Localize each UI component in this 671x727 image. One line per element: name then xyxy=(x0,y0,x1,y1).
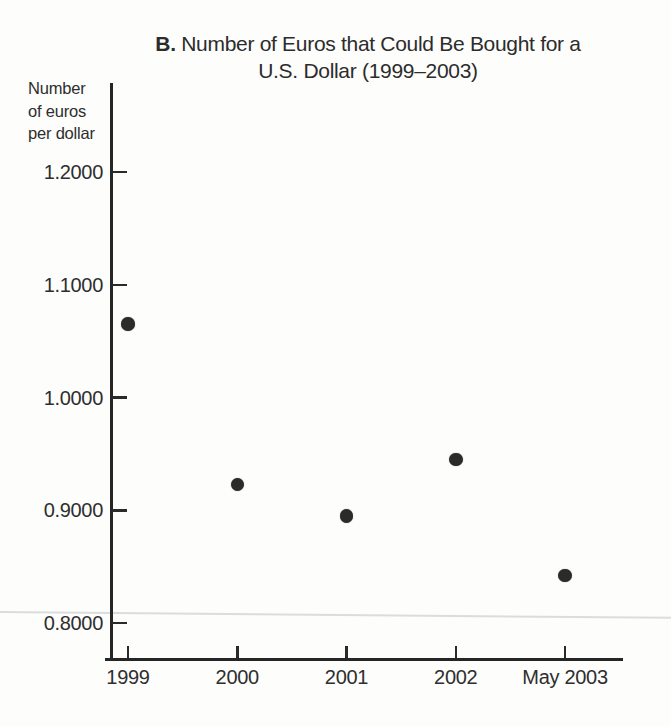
x-axis-tick xyxy=(564,646,567,658)
x-axis-tick xyxy=(127,646,130,658)
x-tick-label: 2002 xyxy=(396,665,516,689)
y-axis-tick xyxy=(112,171,127,174)
x-tick-label: 2000 xyxy=(177,665,297,689)
y-tick-label: 1.0000 xyxy=(0,386,103,410)
plot-area: 1.20001.10001.00000.90000.8000 199920002… xyxy=(0,0,671,727)
y-axis-line xyxy=(110,83,113,661)
data-point-2001 xyxy=(340,509,354,523)
y-tick-label: 0.9000 xyxy=(0,498,103,522)
y-axis-tick xyxy=(112,622,127,625)
x-axis-line xyxy=(105,658,623,661)
y-tick-label: 1.1000 xyxy=(0,273,103,297)
y-axis-tick xyxy=(112,396,127,399)
y-tick-label: 0.8000 xyxy=(0,611,103,635)
data-point-2002 xyxy=(449,453,463,467)
y-tick-label: 1.2000 xyxy=(0,160,103,184)
y-axis-tick xyxy=(112,509,127,512)
y-axis-tick xyxy=(112,284,127,287)
x-axis-tick xyxy=(345,646,348,658)
x-axis-tick xyxy=(236,646,239,658)
x-axis-tick xyxy=(455,646,458,658)
x-tick-label: 1999 xyxy=(68,665,188,689)
data-point-2000 xyxy=(231,478,245,492)
data-point-1999 xyxy=(121,317,135,331)
x-tick-label: May 2003 xyxy=(505,665,625,689)
x-tick-label: 2001 xyxy=(287,665,407,689)
data-point-may-2003 xyxy=(558,569,572,583)
chart-page: B. Number of Euros that Could Be Bought … xyxy=(0,0,671,727)
